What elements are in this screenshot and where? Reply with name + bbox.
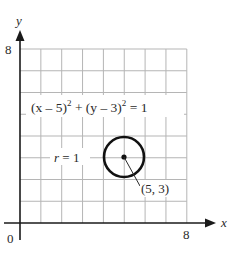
radius-label: r = 1 bbox=[54, 150, 79, 165]
y-axis-arrow-icon bbox=[16, 30, 25, 41]
y-axis-label: y bbox=[14, 13, 22, 28]
circle-equation: (x – 5)2 + (y – 3)2 = 1 bbox=[31, 98, 147, 115]
y-max-tick-label: 8 bbox=[5, 42, 12, 57]
x-max-tick-label: 8 bbox=[183, 227, 190, 242]
x-axis-label: x bbox=[220, 215, 227, 230]
x-axis-arrow-icon bbox=[205, 219, 216, 228]
origin-label: 0 bbox=[7, 231, 14, 246]
coordinate-plane: x y 0 8 8 (x – 5)2 + (y – 3)2 = 1 r = 1 … bbox=[0, 0, 229, 257]
center-label: (5, 3) bbox=[141, 181, 169, 196]
